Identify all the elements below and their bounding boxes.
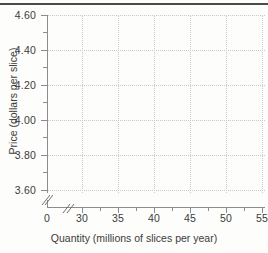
y-axis-tick-minor (43, 102, 47, 103)
x-axis-tick-minor (208, 207, 209, 211)
y-axis-tick-minor (43, 67, 47, 68)
x-axis-break-icon (62, 203, 76, 215)
gridline-vertical (226, 15, 227, 193)
gridline-vertical (190, 15, 191, 193)
x-axis-tick-label: 45 (184, 212, 196, 224)
x-axis-line (47, 207, 265, 208)
x-axis-tick-minor (244, 207, 245, 211)
y-axis-tick-major (41, 85, 47, 86)
x-axis-tick-label: 55 (256, 212, 268, 224)
x-axis-tick-label: 30 (76, 212, 88, 224)
chart-figure: 4.60 4.40 4.20 4.00 3.80 3.60 0 30 35 40… (0, 0, 268, 253)
y-axis-tick-minor (43, 137, 47, 138)
x-axis-tick-label: 50 (220, 212, 232, 224)
x-axis-tick-minor (136, 207, 137, 211)
gridline-vertical (262, 15, 263, 193)
y-axis-tick-major (41, 190, 47, 191)
gridline-horizontal (47, 120, 265, 121)
y-axis-tick-minor (43, 172, 47, 173)
plot-area (47, 15, 265, 207)
x-axis-tick-label: 40 (148, 212, 160, 224)
gridline-horizontal (47, 15, 265, 16)
gridline-horizontal (47, 190, 265, 191)
gridline-vertical (154, 15, 155, 193)
gridline-horizontal (47, 85, 265, 86)
gridline-horizontal (47, 50, 265, 51)
x-axis-tick-minor (100, 207, 101, 211)
y-axis-tick-major (41, 120, 47, 121)
x-axis-tick-minor (172, 207, 173, 211)
x-axis-title: Quantity (millions of slices per year) (0, 232, 268, 244)
y-axis-tick-minor (43, 32, 47, 33)
y-axis-title: Price (dollars per slice) (7, 11, 19, 191)
y-axis-tick-major (41, 155, 47, 156)
y-axis-tick-major (41, 15, 47, 16)
top-divider-rule (0, 3, 268, 5)
gridline-horizontal (47, 155, 265, 156)
x-axis-tick-label: 0 (44, 212, 50, 224)
y-axis-tick-major (41, 50, 47, 51)
x-axis-tick-label: 35 (112, 212, 124, 224)
y-axis-break-icon (41, 193, 53, 207)
gridline-vertical (82, 15, 83, 193)
y-axis-line (47, 15, 48, 193)
gridline-vertical (118, 15, 119, 193)
